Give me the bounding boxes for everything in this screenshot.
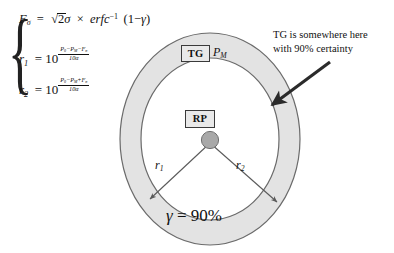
equation-system: { Fσ = √2σ × erfc−1 (1−γ) r1 = 10P0−PM−F… bbox=[8, 8, 126, 102]
annotation-line-2: with 90% certainty bbox=[273, 42, 391, 56]
target-node-box: TG bbox=[181, 45, 210, 62]
annotation-line-1: TG is somewhere here bbox=[273, 28, 391, 42]
gamma-symbol: γ bbox=[166, 206, 173, 225]
gamma-value: 90% bbox=[191, 206, 222, 225]
reference-point-node-icon bbox=[201, 131, 218, 148]
equation-r1-exponent: P0−PM−Fσ10α bbox=[58, 46, 89, 61]
equation-fsigma: Fσ = √2σ × erfc−1 (1−γ) bbox=[19, 12, 150, 27]
radius-r1-label-sub: 1 bbox=[160, 164, 164, 173]
figure-canvas: { Fσ = √2σ × erfc−1 (1−γ) r1 = 10P0−PM−F… bbox=[0, 0, 394, 253]
equation-r2: r2 = 10P0−PM+Fσ10α bbox=[19, 77, 89, 99]
gamma-confidence-label: γ = 90% bbox=[166, 206, 222, 226]
annotation-text: TG is somewhere here with 90% certainty bbox=[273, 28, 391, 55]
gamma-equals: = bbox=[173, 206, 191, 225]
radius-r2-label-sub: 2 bbox=[241, 164, 245, 173]
equation-r1: r1 = 10P0−PM−Fσ10α bbox=[19, 46, 89, 68]
pm-power-label: PM bbox=[213, 45, 227, 63]
reference-point-box: RP bbox=[185, 110, 215, 128]
pm-power-label-sub: M bbox=[220, 51, 226, 60]
radius-r1-label: r1 bbox=[155, 158, 164, 173]
equation-r2-exponent: P0−PM+Fσ10α bbox=[58, 77, 89, 92]
radius-r2-label: r2 bbox=[236, 158, 245, 173]
